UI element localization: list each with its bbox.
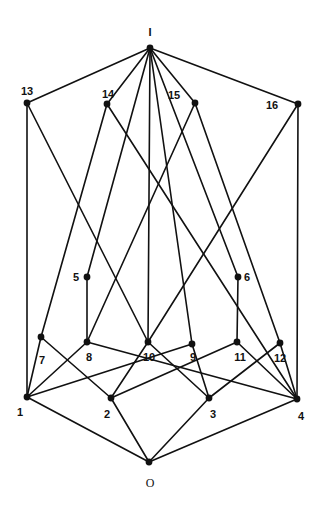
node-label-3: 3	[210, 408, 216, 420]
node-2	[108, 395, 115, 402]
node-label-9: 9	[190, 351, 196, 363]
edge-I-5	[87, 48, 150, 277]
edge-7-1	[27, 337, 41, 397]
edge-15-8	[87, 103, 195, 342]
node-label-10: 10	[143, 351, 155, 363]
node-label-O: O	[146, 476, 155, 490]
node-11	[234, 339, 241, 346]
labels-group: I13141516567810911121234O	[17, 26, 305, 490]
node-I	[147, 45, 154, 52]
edge-3-O	[149, 398, 209, 462]
edge-16-4	[297, 104, 298, 399]
edge-I-13	[27, 48, 150, 103]
node-label-15: 15	[168, 89, 180, 101]
node-label-7: 7	[39, 354, 45, 366]
node-label-11: 11	[234, 351, 246, 363]
nodes-group	[24, 45, 302, 466]
node-7	[38, 334, 45, 341]
node-label-I: I	[148, 26, 151, 38]
node-label-6: 6	[244, 271, 250, 283]
node-1	[24, 394, 31, 401]
node-label-12: 12	[274, 352, 286, 364]
node-label-16: 16	[266, 99, 278, 111]
node-16	[295, 101, 302, 108]
edge-14-7	[41, 104, 107, 337]
edge-I-10	[148, 48, 150, 342]
node-label-13: 13	[21, 85, 33, 97]
node-3	[206, 395, 213, 402]
node-label-8: 8	[86, 351, 92, 363]
lattice-diagram: I13141516567810911121234O	[0, 0, 320, 505]
edges-group	[27, 48, 298, 462]
node-8	[84, 339, 91, 346]
node-5	[84, 274, 91, 281]
node-label-14: 14	[102, 88, 115, 100]
node-6	[235, 274, 242, 281]
node-9	[189, 341, 196, 348]
edge-I-6	[150, 48, 238, 277]
edge-4-O	[149, 399, 297, 462]
edge-16-10	[148, 104, 298, 342]
edge-6-11	[237, 277, 238, 342]
node-10	[145, 339, 152, 346]
edge-1-O	[27, 397, 149, 462]
node-4	[294, 396, 301, 403]
node-label-1: 1	[17, 406, 23, 418]
node-12	[277, 340, 284, 347]
node-label-4: 4	[298, 410, 305, 422]
node-label-2: 2	[104, 408, 110, 420]
node-14	[104, 101, 111, 108]
node-15	[192, 100, 199, 107]
node-O	[146, 459, 153, 466]
edge-9-1	[27, 344, 192, 397]
node-13	[24, 100, 31, 107]
node-label-5: 5	[73, 271, 79, 283]
